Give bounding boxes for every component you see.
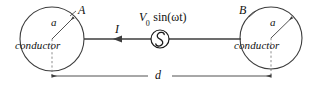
current-label: I <box>115 23 119 35</box>
right-conductor-label: conductor <box>234 40 280 51</box>
left-radius-label: a <box>51 17 57 28</box>
distance-label: d <box>155 69 161 81</box>
right-point-leader <box>249 11 256 17</box>
physics-circuit-figure: conductor A a conductor B a I V0 sin(ωt)… <box>0 0 314 86</box>
current-arrowhead <box>113 36 122 43</box>
right-radius-label: a <box>270 17 276 28</box>
left-conductor-label: conductor <box>15 40 61 51</box>
source-label-subscript: 0 <box>146 19 150 28</box>
left-point-label-a: A <box>78 4 85 16</box>
source-label-suffix: sin(ωt) <box>150 10 186 24</box>
ac-source-label: V0 sin(ωt) <box>139 11 187 26</box>
right-point-label-b: B <box>239 4 246 16</box>
